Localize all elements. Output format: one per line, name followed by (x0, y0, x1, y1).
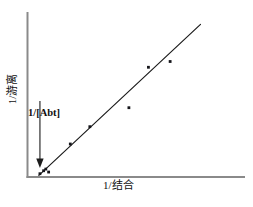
scatchard-plot-figure: 1/游离 1/结合 1/[Abt] (0, 0, 253, 207)
data-point (44, 168, 47, 171)
data-point (88, 125, 91, 128)
intercept-annotation-label: 1/[Abt] (28, 107, 60, 118)
y-axis-label: 1/游离 (7, 74, 18, 105)
data-point (147, 66, 150, 69)
regression-line (39, 24, 201, 175)
data-point (69, 143, 72, 146)
data-point (47, 171, 50, 174)
data-point (39, 172, 42, 175)
y-axis-label-wrapper: 1/游离 (0, 56, 24, 122)
data-point (128, 106, 131, 109)
x-axis-label: 1/结合 (103, 180, 134, 191)
data-point (169, 60, 172, 63)
plot-canvas (0, 0, 253, 207)
